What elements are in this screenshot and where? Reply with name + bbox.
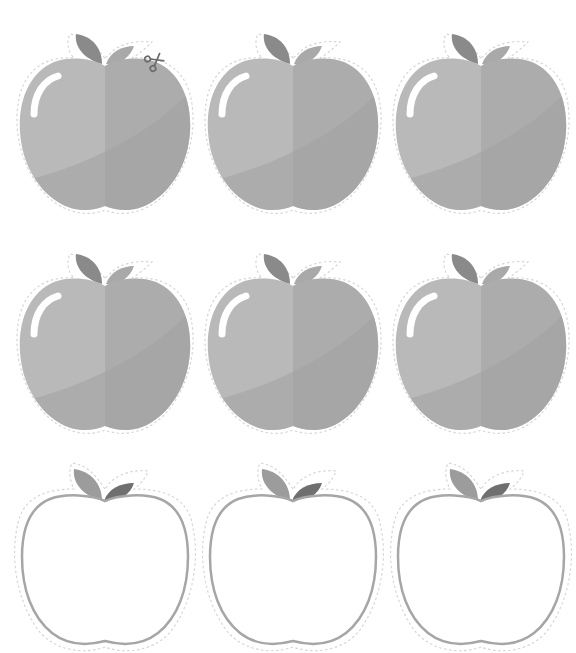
apple-graphic — [10, 242, 200, 442]
apple-7 — [10, 457, 200, 653]
apple-graphic — [386, 457, 576, 653]
apple-graphic — [10, 22, 200, 222]
apple-graphic — [386, 242, 576, 442]
apple-8 — [198, 457, 388, 653]
apple-outline — [398, 495, 564, 644]
apple-1 — [10, 22, 200, 222]
apple-graphic — [386, 22, 576, 222]
apple-3 — [386, 22, 576, 222]
apple-9 — [386, 457, 576, 653]
apple-5 — [198, 242, 388, 442]
apple-graphic — [198, 457, 388, 653]
apple-6 — [386, 242, 576, 442]
apple-outline — [22, 495, 188, 644]
apple-2 — [198, 22, 388, 222]
apple-graphic — [10, 457, 200, 653]
apple-graphic — [198, 242, 388, 442]
apple-graphic — [198, 22, 388, 222]
apple-outline — [210, 495, 376, 644]
apple-4 — [10, 242, 200, 442]
